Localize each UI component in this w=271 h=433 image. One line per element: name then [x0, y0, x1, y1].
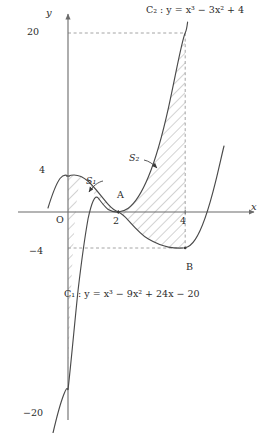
equation-label-c2: C₂ : y = x³ − 3x² + 4 [146, 5, 244, 15]
region-s1-shading [68, 89, 118, 390]
point-a-marker [117, 211, 120, 214]
x-axis-label: x [251, 202, 257, 212]
x-tick-label-4: 4 [180, 216, 186, 226]
y-tick-label-neg4: −4 [29, 246, 43, 256]
x-tick-label-2: 2 [113, 216, 119, 226]
region-label-s2: S₂ [129, 153, 139, 163]
y-axis-label: y [46, 8, 52, 18]
point-label-a: A [117, 190, 124, 200]
region-s2-fill [118, 33, 185, 248]
y-tick-label-4: 4 [39, 165, 45, 175]
point-label-b: B [186, 262, 193, 272]
y-tick-label-20: 20 [27, 27, 39, 37]
y-tick-label-neg20: −20 [23, 408, 43, 418]
equation-label-c1: C₁ : y = x³ − 9x² + 24x − 20 [64, 289, 200, 299]
region-label-s1: S₁ [86, 176, 96, 186]
graph-svg [0, 0, 271, 433]
origin-label: O [56, 215, 64, 225]
figure-canvas: C₂ : y = x³ − 3x² + 4 C₁ : y = x³ − 9x² … [0, 0, 271, 433]
point-b-marker [184, 247, 187, 250]
